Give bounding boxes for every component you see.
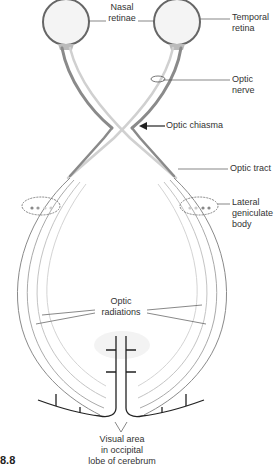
label-optic-nerve: Optic nerve <box>232 74 277 96</box>
optic-nerve-marker <box>151 76 165 82</box>
right-eyeball <box>154 0 200 50</box>
occipital-cortex <box>38 331 204 417</box>
label-line: radiations <box>95 307 147 318</box>
visual-pathway-diagram <box>0 0 277 472</box>
label-optic-chiasma: Optic chiasma <box>166 120 223 131</box>
label-lateral-geniculate-body: Lateral geniculate body <box>232 197 273 230</box>
label-line: retinae <box>104 13 140 24</box>
label-nasal-retinae: Nasal retinae <box>104 2 140 24</box>
right-lateral-geniculate-body <box>180 197 218 215</box>
label-optic-radiations: Optic radiations <box>95 296 147 318</box>
label-line: body <box>232 219 273 230</box>
label-optic-tract: Optic tract <box>230 163 271 174</box>
left-eyeball <box>43 0 89 50</box>
left-optic-radiations <box>17 178 106 415</box>
label-line: lobe of cerebrum <box>86 456 158 467</box>
label-line: geniculate <box>232 208 273 219</box>
label-line: Temporal <box>232 12 269 23</box>
label-line: Lateral <box>232 197 273 208</box>
label-line: in occipital <box>86 445 158 456</box>
label-visual-area: Visual area in occipital lobe of cerebru… <box>86 434 158 467</box>
label-line: Optic <box>95 296 147 307</box>
label-line: Nasal <box>104 2 140 13</box>
optic-chiasma-arrow <box>139 122 165 130</box>
label-line: retina <box>232 23 269 34</box>
right-optic-radiations <box>138 178 227 415</box>
label-line: Visual area <box>86 434 158 445</box>
figure-number: 8.8 <box>0 454 15 466</box>
label-temporal-retina: Temporal retina <box>232 12 269 34</box>
optic-nerves <box>62 48 181 178</box>
